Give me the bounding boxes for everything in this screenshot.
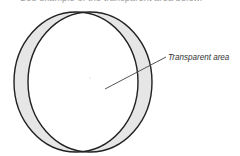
- transparent-area-label: Transparent area: [168, 51, 229, 62]
- two-circle-diagram: [0, 0, 240, 156]
- center-dot: [89, 77, 90, 78]
- transparent-area-shading: [14, 12, 152, 152]
